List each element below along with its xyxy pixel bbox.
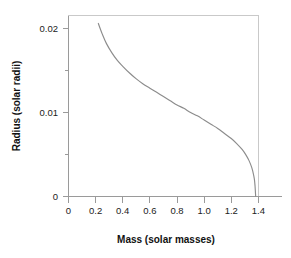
y-axis-title: Radius (solar radii)	[11, 61, 22, 152]
x-tick-label-0: 0	[66, 205, 71, 216]
mass-radius-curve	[98, 23, 255, 196]
mass-radius-plot: 0.02 0.01 0 0 0.2 0.4 0.6 0.8 1.0 1.2 1.…	[0, 0, 291, 258]
y-tick-label-0: 0.02	[40, 23, 59, 34]
plot-frame	[69, 16, 259, 197]
x-tick-label-4: 0.8	[170, 205, 183, 216]
x-tick-label-1: 0.2	[89, 205, 102, 216]
y-tick-label-2: 0	[53, 191, 58, 202]
x-tick-label-7: 1.4	[252, 205, 265, 216]
chart-figure: 0.02 0.01 0 0 0.2 0.4 0.6 0.8 1.0 1.2 1.…	[0, 0, 291, 258]
x-tick-label-2: 0.4	[116, 205, 129, 216]
y-tick-label-1: 0.01	[40, 107, 59, 118]
x-tick-label-5: 1.0	[197, 205, 210, 216]
x-tick-label-3: 0.6	[143, 205, 156, 216]
x-axis-title: Mass (solar masses)	[117, 234, 215, 245]
x-tick-label-6: 1.2	[225, 205, 238, 216]
